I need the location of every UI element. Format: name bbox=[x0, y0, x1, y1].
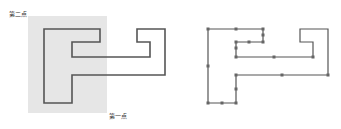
grip-point[interactable] bbox=[221, 102, 224, 105]
grip-point[interactable] bbox=[262, 34, 265, 37]
grip-point[interactable] bbox=[281, 74, 284, 77]
grip-point[interactable] bbox=[235, 88, 238, 91]
diagram-canvas bbox=[0, 0, 341, 129]
grip-point[interactable] bbox=[235, 28, 238, 31]
grip-point[interactable] bbox=[262, 28, 265, 31]
grip-point[interactable] bbox=[248, 41, 251, 44]
label-second-point: 第二点 bbox=[9, 11, 27, 17]
grip-point[interactable] bbox=[207, 65, 210, 68]
label-first-point: 第一点 bbox=[109, 113, 127, 119]
f-shape-polyline-selected[interactable] bbox=[208, 29, 328, 103]
grip-point[interactable] bbox=[235, 56, 238, 59]
grip-point[interactable] bbox=[207, 102, 210, 105]
selection-window-rect bbox=[28, 16, 107, 113]
grip-point[interactable] bbox=[235, 41, 238, 44]
grip-point[interactable] bbox=[235, 47, 238, 50]
grip-points[interactable] bbox=[207, 28, 330, 105]
grip-point[interactable] bbox=[262, 41, 265, 44]
grip-point[interactable] bbox=[235, 102, 238, 105]
grip-point[interactable] bbox=[207, 28, 210, 31]
grip-point[interactable] bbox=[235, 74, 238, 77]
grip-point[interactable] bbox=[273, 56, 276, 59]
grip-point[interactable] bbox=[312, 56, 315, 59]
grip-point[interactable] bbox=[327, 74, 330, 77]
